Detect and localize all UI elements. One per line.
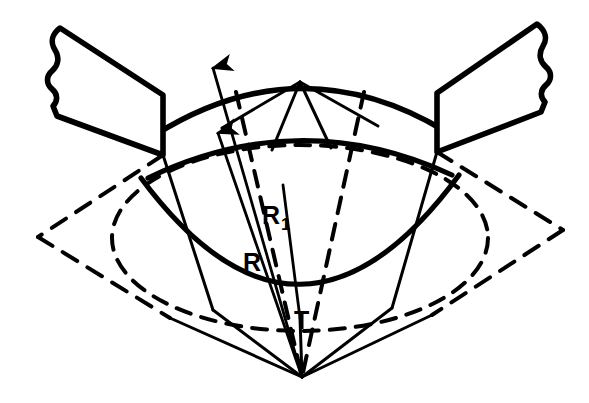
diagram-root: R 1 R T — [0, 0, 589, 403]
label-r: R — [243, 248, 261, 276]
label-r1-letter: R — [262, 201, 280, 229]
label-r1-subscript: 1 — [281, 215, 290, 234]
radius-construction-figure: R 1 R T — [0, 0, 589, 403]
label-t: T — [294, 306, 309, 334]
